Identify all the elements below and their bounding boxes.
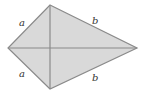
- label-lower-right-side: b: [92, 72, 98, 83]
- label-lower-left-side: a: [19, 68, 25, 79]
- label-upper-right-side: b: [92, 15, 98, 26]
- label-upper-left-side: a: [19, 17, 25, 28]
- kite-diagram: a a b b: [0, 0, 148, 93]
- kite-shape: [8, 5, 137, 89]
